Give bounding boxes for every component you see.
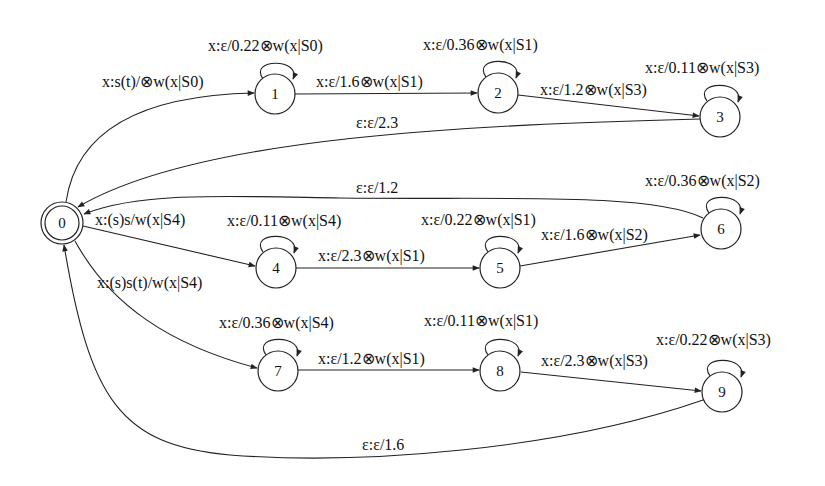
- edge-8-9: [521, 372, 701, 391]
- node-5-label: 5: [496, 260, 504, 276]
- edge-label-7-8: x:ε/1.2⊗w(x|S1): [318, 350, 425, 368]
- node-6-label: 6: [717, 221, 725, 237]
- node-7-label: 7: [274, 363, 282, 379]
- edge-label-9-0: ε:ε/1.6: [362, 436, 404, 453]
- edge-label-0-7: x:(s)s(t)/w(x|S4): [97, 274, 202, 292]
- edge-label-loop-3: x:ε/0.11⊗w(x|S3): [645, 59, 759, 77]
- node-0-label: 0: [58, 215, 66, 231]
- edge-label-loop-7: x:ε/0.36⊗w(x|S4): [219, 314, 334, 332]
- edge-label-5-6: x:ε/1.6⊗w(x|S2): [541, 226, 648, 244]
- edge-label-2-3: x:ε/1.2⊗w(x|S3): [540, 81, 647, 99]
- node-7: 7: [258, 351, 298, 391]
- edge-2-3: [518, 95, 699, 116]
- edge-label-loop-5: x:ε/0.22⊗w(x|S1): [421, 211, 536, 229]
- edge-label-0-4: x:(s)s/w(x|S4): [95, 211, 185, 229]
- node-0: 0: [41, 202, 83, 244]
- node-5: 5: [480, 248, 520, 288]
- edge-label-3-0: ε:ε/2.3: [356, 114, 398, 131]
- wfst-diagram: 0 1 2 3 4 5 6 7 8 9 x:s(t)/⊗w(x|S0) x:ε/…: [0, 0, 825, 486]
- edge-label-6-0: ε:ε/1.2: [356, 179, 398, 196]
- node-2-label: 2: [494, 85, 502, 101]
- edge-label-0-1: x:s(t)/⊗w(x|S0): [102, 73, 204, 91]
- node-3: 3: [700, 97, 740, 137]
- node-1: 1: [255, 74, 295, 114]
- edge-label-loop-6: x:ε/0.36⊗w(x|S2): [645, 172, 760, 190]
- edge-label-1-2: x:ε/1.6⊗w(x|S1): [316, 73, 423, 91]
- node-9: 9: [702, 372, 742, 412]
- edge-0-4: [83, 226, 255, 266]
- edge-label-4-5: x:ε/2.3⊗w(x|S1): [318, 247, 425, 265]
- node-9-label: 9: [718, 384, 726, 400]
- node-6: 6: [701, 209, 741, 249]
- edge-label-loop-1: x:ε/0.22⊗w(x|S0): [208, 37, 323, 55]
- node-8-label: 8: [496, 363, 504, 379]
- edge-label-loop-4: x:ε/0.11⊗w(x|S4): [227, 212, 341, 230]
- node-1-label: 1: [271, 86, 279, 102]
- node-8: 8: [480, 351, 520, 391]
- edge-label-loop-9: x:ε/0.22⊗w(x|S3): [656, 331, 771, 349]
- node-2: 2: [478, 73, 518, 113]
- edge-label-8-9: x:ε/2.3⊗w(x|S3): [541, 352, 648, 370]
- node-3-label: 3: [716, 109, 724, 125]
- edge-1-2: [295, 93, 477, 94]
- edge-label-loop-2: x:ε/0.36⊗w(x|S1): [423, 36, 538, 54]
- edge-0-1: [66, 93, 254, 202]
- edge-label-loop-8: x:ε/0.11⊗w(x|S1): [424, 312, 538, 330]
- node-4: 4: [256, 248, 296, 288]
- node-4-label: 4: [272, 260, 280, 276]
